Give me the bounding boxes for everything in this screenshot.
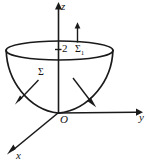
left-normal-arrow (15, 80, 39, 105)
origin-label: O (60, 114, 68, 125)
z-axis (55, 2, 62, 114)
cap-rim-ellipse (6, 41, 113, 60)
cap-surface-label: Σ1 (75, 44, 84, 57)
z-tick-label-2: 2 (62, 43, 68, 54)
figure-container: z y x O 2 Σ1 Σ (0, 0, 150, 167)
cap-normal-arrow (75, 22, 81, 42)
paraboloid-surface-label: Σ (38, 67, 44, 77)
z-axis-label: z (61, 1, 65, 12)
x-axis-arrowhead (7, 145, 16, 155)
x-axis (7, 113, 58, 154)
y-axis-label: y (139, 112, 144, 123)
paraboloid-diagram-svg (0, 0, 150, 167)
cap-normal-arrowhead (75, 22, 81, 28)
left-normal-arrowhead (15, 96, 23, 105)
cap-surface-label-subscript: 1 (81, 49, 85, 57)
x-axis-label: x (16, 150, 21, 161)
